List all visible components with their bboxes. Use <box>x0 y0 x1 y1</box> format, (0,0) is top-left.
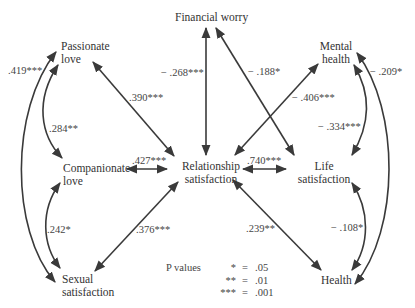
label-passionate-relationship: .390*** <box>129 92 163 104</box>
legend-value-2: .01 <box>255 275 268 288</box>
node-financial-worry: Financial worry <box>175 11 248 24</box>
node-mental-health-line1: Mental <box>315 40 357 53</box>
label-companionate-relationship: .427*** <box>132 155 166 167</box>
legend-stars-1: * <box>214 262 236 275</box>
node-passionate-love-line1: Passionate <box>61 40 110 53</box>
node-sexual-satisfaction-line2: satisfaction <box>62 286 114 299</box>
label-companionate-sexual: .242* <box>47 224 71 236</box>
legend-stars-3: *** <box>214 287 236 300</box>
node-health: Health <box>321 274 352 287</box>
p-values-legend: P values * = .05 ** = .01 *** = .001 <box>166 262 286 304</box>
label-passionate-sexual: .419*** <box>8 65 42 77</box>
node-relationship-satisfaction-line1: Relationship <box>175 160 247 173</box>
node-companionate-love: Companionate love <box>63 162 130 188</box>
node-sexual-satisfaction: Sexual satisfaction <box>62 273 114 299</box>
label-life-health: − .108* <box>331 222 363 234</box>
node-mental-health-line2: health <box>315 53 357 66</box>
node-companionate-love-line2: love <box>63 175 130 188</box>
node-passionate-love: Passionate love <box>61 40 110 66</box>
label-sexual-relationship: .376*** <box>136 224 170 236</box>
label-mental-relationship: − .406*** <box>292 92 335 104</box>
edge-passionate-sexual <box>21 52 56 282</box>
edge-financial-life <box>216 28 294 155</box>
label-relationship-life: .740*** <box>247 155 281 167</box>
legend-eq-1: = <box>242 262 248 275</box>
node-mental-health: Mental health <box>315 40 357 66</box>
legend-value-3: .001 <box>255 287 273 300</box>
label-mental-health: − .209* <box>370 66 402 78</box>
node-life-satisfaction-line1: Life <box>294 160 354 173</box>
node-relationship-satisfaction: Relationship satisfaction <box>175 160 247 186</box>
legend-value-1: .05 <box>255 262 268 275</box>
edge-mental-health <box>355 53 389 284</box>
edge-passionate-companionate <box>43 65 62 158</box>
label-passionate-companionate: .284** <box>49 123 78 135</box>
legend-title: P values <box>166 262 201 275</box>
label-relationship-health: .239** <box>246 223 275 235</box>
node-passionate-love-line2: love <box>61 53 110 66</box>
node-companionate-love-line1: Companionate <box>63 162 130 175</box>
node-life-satisfaction: Life satisfaction <box>294 160 354 186</box>
legend-eq-2: = <box>242 275 248 288</box>
label-mental-life: − .334*** <box>318 121 361 133</box>
legend-stars-2: ** <box>214 275 236 288</box>
edge-mental-life <box>352 65 367 155</box>
label-financial-relationship: − .268*** <box>161 67 204 79</box>
label-financial-life: − .188* <box>248 66 280 78</box>
legend-eq-3: = <box>242 287 248 300</box>
node-sexual-satisfaction-line1: Sexual <box>62 273 114 286</box>
node-life-satisfaction-line2: satisfaction <box>294 173 354 186</box>
node-relationship-satisfaction-line2: satisfaction <box>175 173 247 186</box>
